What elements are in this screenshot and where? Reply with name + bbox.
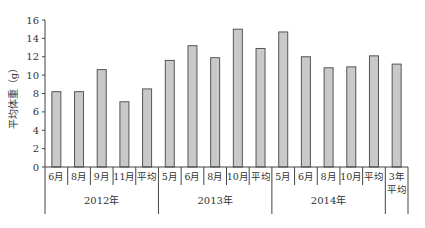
bar-chart: 0246810121416 6月8月9月11月平均5月6月8月10月平均5月6月… (0, 0, 425, 228)
x-category-label: 平均 (387, 184, 407, 195)
x-category-label: 11月 (113, 171, 135, 182)
x-category-label: 3年 (389, 171, 405, 182)
bar (256, 48, 265, 167)
y-tick-label: 12 (26, 51, 39, 62)
bar (97, 70, 106, 167)
bar (324, 68, 333, 167)
x-axis: 6月8月9月11月平均5月6月8月10月平均5月6月8月10月平均3年平均201… (45, 167, 408, 214)
x-category-label: 平均 (364, 171, 384, 182)
bar (188, 46, 197, 167)
x-category-label: 9月 (94, 171, 110, 182)
x-category-label: 8月 (321, 171, 337, 182)
bar (233, 29, 242, 167)
bar (369, 56, 378, 167)
bar (165, 60, 174, 167)
y-tick-label: 14 (26, 33, 39, 44)
x-category-label: 5月 (162, 171, 178, 182)
bar (52, 92, 61, 167)
x-group-label: 2013年 (197, 194, 232, 206)
x-category-label: 8月 (71, 171, 87, 182)
y-tick-label: 8 (33, 88, 39, 99)
bar (120, 102, 129, 167)
bar (211, 58, 220, 167)
y-tick-label: 6 (33, 106, 39, 117)
x-category-label: 平均 (251, 171, 271, 182)
x-category-label: 6月 (48, 171, 64, 182)
x-category-label: 10月 (227, 171, 249, 182)
x-category-label: 6月 (298, 171, 314, 182)
y-tick-label: 2 (33, 143, 39, 154)
x-group-label: 2014年 (311, 194, 346, 206)
y-axis: 0246810121416 (26, 15, 45, 173)
bar (347, 67, 356, 167)
x-category-label: 8月 (207, 171, 223, 182)
x-category-label: 5月 (275, 171, 291, 182)
bar (279, 32, 288, 167)
bar (143, 89, 152, 167)
x-category-label: 6月 (184, 171, 200, 182)
y-tick-label: 16 (26, 15, 39, 26)
y-axis-label: 平均体重（g） (7, 63, 19, 129)
bar (301, 57, 310, 167)
x-category-label: 平均 (137, 171, 157, 182)
bars (52, 29, 401, 167)
bar (75, 92, 84, 167)
y-tick-label: 0 (33, 162, 39, 173)
y-tick-label: 4 (33, 125, 39, 136)
x-group-label: 2012年 (84, 194, 119, 206)
bar (392, 64, 401, 167)
y-tick-label: 10 (26, 70, 39, 81)
x-category-label: 10月 (340, 171, 362, 182)
